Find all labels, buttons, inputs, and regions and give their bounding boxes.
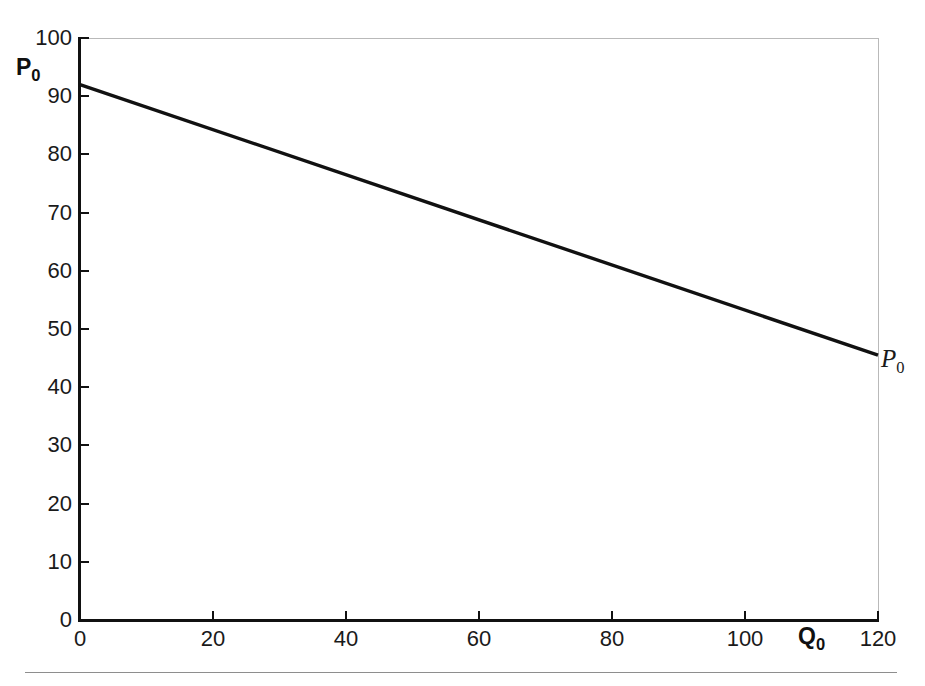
- demand-curve-line: [80, 85, 878, 356]
- page-separator-rule: [25, 672, 897, 673]
- curve-label-base: P: [881, 345, 896, 372]
- curve-end-label: P0: [881, 346, 905, 377]
- curve-plot: [0, 0, 925, 686]
- curve-label-subscript: 0: [896, 358, 904, 377]
- chart-figure: 0102030405060708090100 020406080100120 P…: [0, 0, 925, 686]
